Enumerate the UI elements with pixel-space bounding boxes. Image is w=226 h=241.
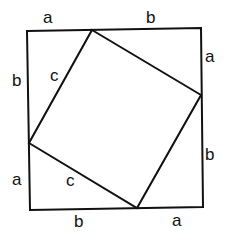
label-top-b: b [146,8,155,27]
label-bottom-a: a [172,211,182,230]
outer-square [27,28,203,210]
label-upper-c: c [50,66,59,85]
inner-square [29,30,201,208]
pythagorean-diagram: a b a b b a b a c c [0,0,226,241]
label-lower-c: c [66,171,75,190]
label-right-a: a [205,47,215,66]
label-right-b: b [205,145,214,164]
label-bottom-b: b [74,212,83,231]
label-left-a: a [12,170,22,189]
label-top-a: a [43,8,53,27]
label-left-b: b [12,71,21,90]
